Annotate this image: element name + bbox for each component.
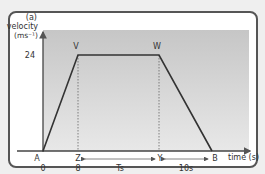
y-tick-24: 24 [25,51,35,60]
panel-label: (a) [26,13,37,22]
y-axis-unit: (ms⁻¹) [14,31,38,40]
x-axis-label: time (s) [228,153,259,162]
point-label-v: V [73,42,79,51]
point-label-a: A [34,154,40,163]
interval-label-t: Ts [115,164,124,173]
y-axis-label: velocity [7,22,39,31]
x-tick-8: 8 [75,164,80,173]
x-tick-0: 0 [40,164,45,173]
velocity-time-graph: (a) velocity (ms⁻¹) 24 V W A 0 Z 8 Y B T… [0,0,265,174]
point-label-b: B [212,154,218,163]
point-label-y: Y [157,154,163,163]
point-label-w: W [153,42,161,51]
interval-label-10s: 10s [179,164,193,173]
point-label-z: Z [75,154,81,163]
